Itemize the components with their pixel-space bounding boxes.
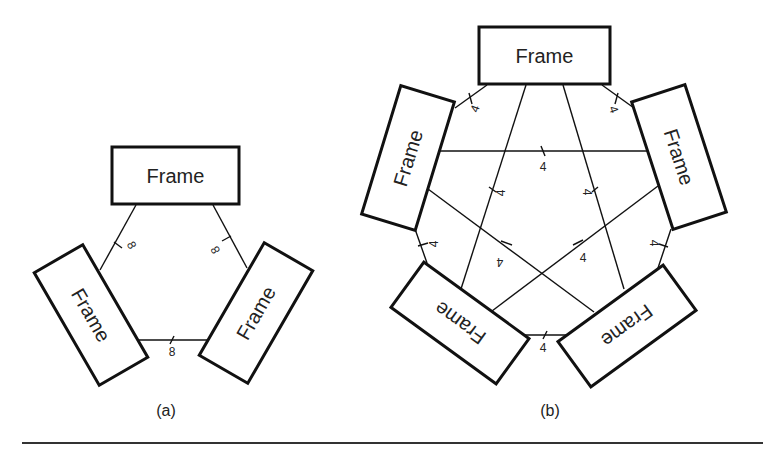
tick-a-1 [114,242,122,248]
link-b-left-bottomleft [415,229,427,263]
frame-b-top-label: Frame [516,45,574,67]
weight-b-left-bottomright: 4 [580,251,587,265]
caption-a: (a) [156,402,176,419]
weight-b-top-bottomright: 4 [580,189,594,196]
caption-b: (b) [540,402,560,419]
weight-a-top-right: 8 [208,243,224,256]
frame-b-right: Frame [632,85,727,230]
frame-b-bottom-left: Frame [391,262,529,384]
link-b-right-bottomright [658,229,671,268]
weight-b-top-right: 4 [606,104,622,115]
frame-b-top: Frame [479,27,610,84]
frame-a-top-label: Frame [147,165,205,187]
weight-b-right-bottomright: 4 [647,240,661,247]
frame-a-left: Frame [34,245,147,386]
weight-a-top-left: 8 [124,239,140,252]
link-a-top-left [100,205,136,270]
tick-b-1 [469,93,472,104]
weight-b-top-bottomleft: 4 [494,189,508,196]
frame-b-left: Frame [362,86,455,231]
figure-canvas: 8 8 8 Frame Frame Frame (a) [0,0,763,464]
link-b-top-bottomright [563,85,624,289]
tick-a-2 [222,236,231,241]
frame-a-top: Frame [112,147,239,204]
link-b-top-bottomleft [461,85,526,289]
weight-b-top-left: 4 [468,103,484,114]
diagram-b: 4 4 4 4 4 4 4 4 4 4 Frame Frame Frame Fr… [362,27,727,419]
weight-a-left-right: 8 [169,345,176,359]
weight-b-bottom: 4 [540,341,547,355]
frame-a-right: Frame [199,243,312,384]
frame-b-bottom-right: Frame [558,265,696,387]
weight-b-left-right: 4 [540,160,547,174]
weight-b-left-bottomleft: 4 [427,240,441,247]
weight-b-right-bottomleft: 4 [496,255,503,269]
diagram-a: 8 8 8 Frame Frame Frame (a) [34,147,312,419]
